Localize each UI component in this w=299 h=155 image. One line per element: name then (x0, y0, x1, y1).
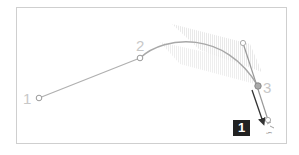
point-label-3: 3 (263, 80, 271, 95)
bezier-path-diagram: ঌ⊷ (0, 0, 299, 155)
step-number-badge: 1 (233, 120, 250, 136)
point-label-1: 1 (23, 91, 31, 106)
anchor-point-1[interactable] (36, 95, 42, 101)
segment-1-2 (39, 58, 140, 98)
svg-text:ঌ⊷: ঌ⊷ (266, 130, 272, 135)
drag-arrow (252, 90, 263, 122)
anchor-point-3[interactable] (255, 83, 261, 89)
anchor-point-2[interactable] (137, 55, 143, 61)
handle-point-top[interactable] (240, 40, 245, 45)
direct-select-cursor-icon: ঌ⊷ (266, 122, 274, 135)
point-label-2: 2 (136, 38, 144, 53)
handle-point-bottom[interactable] (265, 117, 270, 122)
